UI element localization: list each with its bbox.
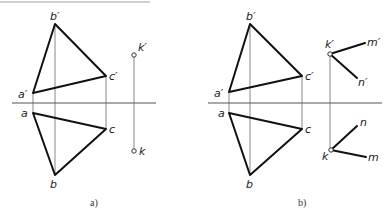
label-a-prime: a′ — [214, 87, 224, 100]
point-k-prime — [132, 53, 136, 57]
line-k-prime-m-prime — [330, 43, 365, 54]
figure-a: b′ a′ c′ k′ a b c k a) — [12, 10, 156, 209]
label-b: b — [50, 178, 57, 191]
caption-b: b) — [298, 197, 306, 209]
label-m-prime: m′ — [367, 36, 381, 49]
label-b-prime: b′ — [50, 10, 60, 23]
label-c: c — [305, 123, 311, 136]
line-k-n — [331, 126, 357, 150]
figure-b: b′ a′ c′ k′ m′ n′ a b c k m n b) — [208, 10, 382, 209]
triangle-front-view — [33, 24, 106, 93]
line-k-m — [331, 150, 366, 157]
label-c-prime: c′ — [305, 70, 314, 83]
label-a-prime: a′ — [18, 88, 28, 101]
label-k: k — [322, 150, 329, 163]
point-k — [132, 149, 136, 153]
triangle-top-view — [229, 113, 302, 175]
label-b-prime: b′ — [246, 10, 256, 23]
label-k-prime: k′ — [138, 41, 147, 54]
label-c: c — [109, 123, 115, 136]
label-b: b — [246, 178, 253, 191]
caption-a: a) — [90, 197, 98, 209]
line-k-prime-n-prime — [330, 54, 357, 78]
point-k-prime — [328, 52, 332, 56]
triangle-top-view — [33, 113, 106, 175]
point-k — [329, 148, 333, 152]
label-m: m — [368, 151, 379, 164]
label-n: n — [360, 116, 367, 129]
label-a: a — [21, 107, 28, 120]
label-n-prime: n′ — [358, 76, 368, 89]
label-c-prime: c′ — [109, 70, 118, 83]
label-k-prime: k′ — [325, 38, 334, 51]
label-a: a — [218, 107, 225, 120]
triangle-front-view — [229, 24, 302, 92]
label-k: k — [139, 145, 146, 158]
projection-diagrams: b′ a′ c′ k′ a b c k a) b′ a′ c′ k′ m′ n′ — [0, 0, 389, 214]
